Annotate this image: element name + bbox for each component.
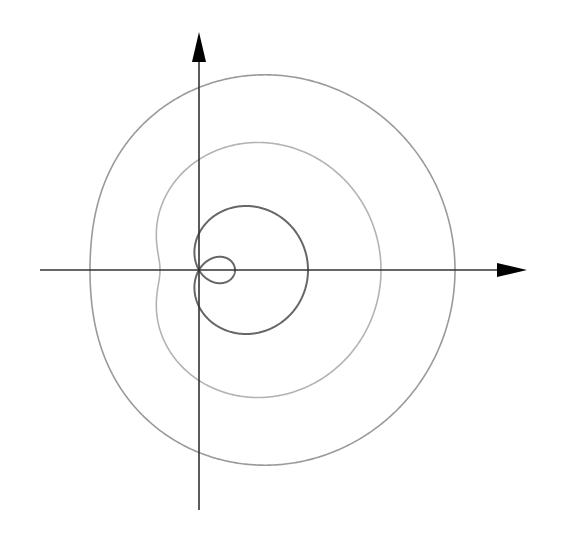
diagram-canvas [0,0,563,535]
y-axis-arrowhead-icon [192,32,206,62]
x-axis-arrowhead-icon [497,263,527,277]
limacon-diagram [0,0,563,535]
